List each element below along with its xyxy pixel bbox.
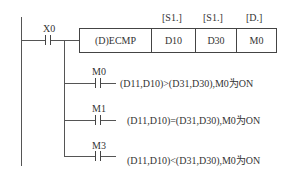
m1-contact-icon [95, 115, 101, 125]
m0-label: M0 [92, 67, 106, 77]
instruction-name: (D)ECMP [80, 29, 151, 52]
operand-s2: D30 [195, 29, 236, 52]
ladder-diagram: X0 (D)ECMP D10 D30 M0 [S1.] [S1.] [D.] M… [0, 0, 293, 177]
x0-label: X0 [43, 24, 55, 34]
m3-label: M3 [92, 141, 106, 151]
branch-text-m0: (D11,D10)>(D31,D30),M0为ON [120, 79, 253, 89]
branch-wire-m3 [64, 156, 116, 157]
ecmp-instruction-box: (D)ECMP D10 D30 M0 [79, 28, 277, 53]
branch-text-m1: (D11,D10)=(D31,D30),M0为ON [127, 116, 260, 126]
operand-header-s1: [S1.] [162, 13, 182, 23]
m0-contact-icon [95, 78, 101, 88]
operand-header-d: [D.] [246, 13, 262, 23]
m1-label: M1 [92, 104, 106, 114]
m3-contact-icon [95, 151, 101, 161]
branch-wire-m1 [64, 120, 116, 121]
operand-d: M0 [236, 29, 276, 52]
x0-contact-icon [45, 35, 51, 45]
branch-wire-m0 [64, 83, 116, 84]
branch-bus [64, 40, 65, 156]
operand-s1: D10 [151, 29, 195, 52]
operand-header-s2: [S1.] [203, 13, 223, 23]
branch-text-m3: (D11,D10)<(D31,D30),M0为ON [127, 156, 260, 166]
